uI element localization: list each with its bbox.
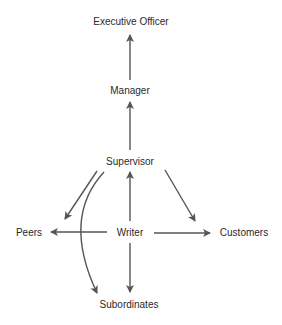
node-customers: Customers — [220, 227, 268, 239]
arrow-supervisor-to-peers — [65, 171, 97, 219]
communication-diagram: Executive Officer Manager Supervisor Wri… — [0, 0, 282, 325]
node-manager: Manager — [110, 85, 149, 97]
node-executive-officer: Executive Officer — [93, 16, 168, 28]
arrow-supervisor-to-customers — [165, 170, 195, 221]
node-peers: Peers — [16, 227, 42, 239]
node-supervisor: Supervisor — [106, 156, 154, 168]
node-writer: Writer — [117, 227, 143, 239]
node-subordinates: Subordinates — [100, 299, 159, 311]
